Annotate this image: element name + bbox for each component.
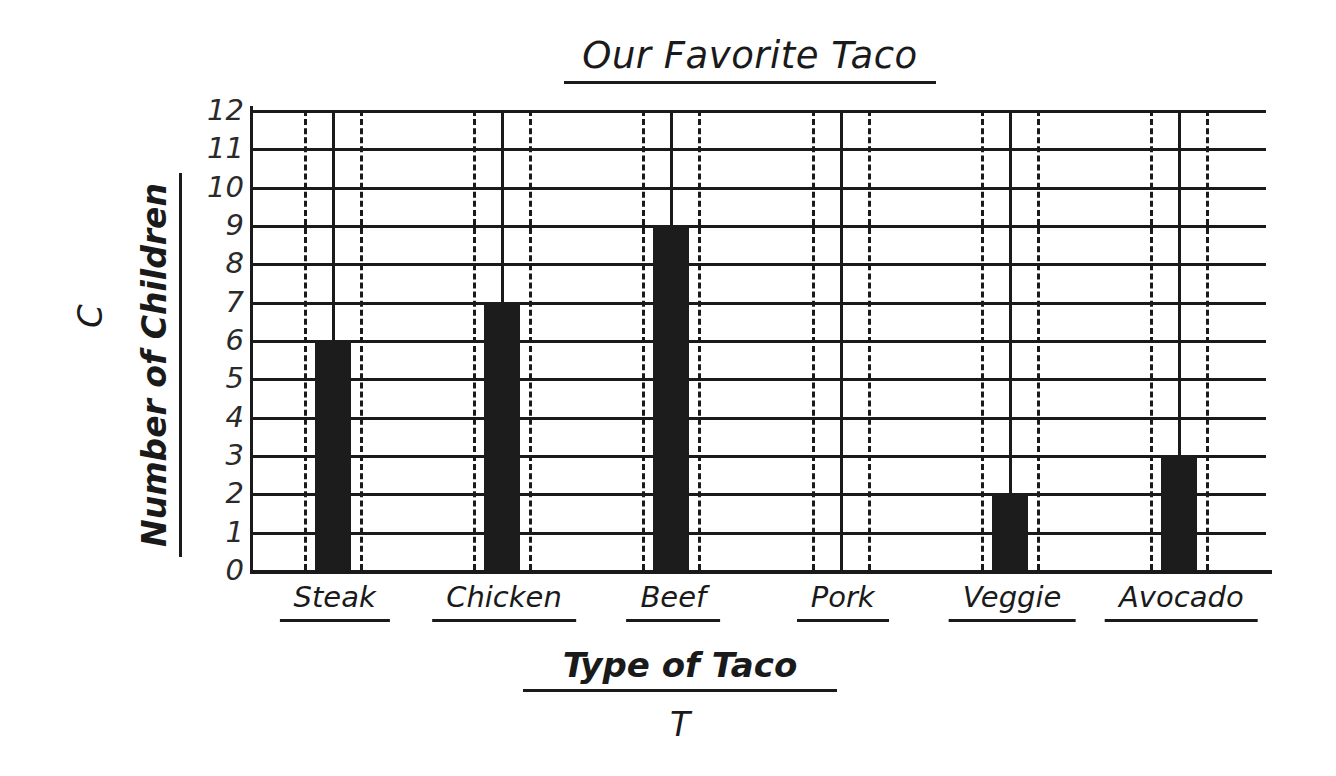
y-axis-tick-labels: 1211109876543210 — [196, 110, 244, 570]
chart-title: Our Favorite Taco — [564, 34, 935, 84]
dashed-guide-right-steak — [360, 110, 363, 570]
gridline-9 — [250, 225, 1266, 228]
x-axis-label-container: Type of Taco — [420, 645, 940, 692]
x-tick-veggie: Veggie — [949, 580, 1076, 622]
x-axis-tick-labels: SteakChickenBeefPorkVeggieAvocado — [250, 580, 1266, 630]
y-tick-4: 4 — [196, 402, 244, 431]
bar-veggie — [992, 493, 1028, 570]
x-tick-pork: Pork — [797, 580, 889, 622]
y-tick-9: 9 — [196, 211, 244, 240]
y-tick-0: 0 — [196, 556, 244, 585]
center-guide-pork — [840, 110, 843, 570]
plot-area — [250, 110, 1266, 570]
gridline-2 — [250, 493, 1266, 496]
bar-steak — [315, 340, 351, 570]
dashed-guide-right-pork — [868, 110, 871, 570]
gridline-6 — [250, 340, 1266, 343]
bar-chart: Our Favorite Taco C Number of Children 1… — [0, 0, 1336, 776]
y-tick-8: 8 — [196, 249, 244, 278]
x-tick-avocado: Avocado — [1105, 580, 1258, 622]
gridline-11 — [250, 148, 1266, 151]
gridline-10 — [250, 187, 1266, 190]
y-tick-2: 2 — [196, 479, 244, 508]
dashed-guide-left-pork — [812, 110, 815, 570]
dashed-guide-right-chicken — [529, 110, 532, 570]
x-tick-label-veggie: Veggie — [949, 580, 1076, 622]
x-tick-label-beef: Beef — [626, 580, 720, 622]
y-tick-6: 6 — [196, 326, 244, 355]
y-tick-11: 11 — [196, 134, 244, 163]
x-axis-label: Type of Taco — [523, 645, 838, 692]
x-tick-label-chicken: Chicken — [432, 580, 576, 622]
y-axis-variable: C — [70, 304, 110, 328]
y-tick-7: 7 — [196, 287, 244, 316]
gridline-5 — [250, 378, 1266, 381]
x-tick-beef: Beef — [626, 580, 720, 622]
dashed-guide-left-beef — [642, 110, 645, 570]
gridline-3 — [250, 455, 1266, 458]
dashed-guide-right-beef — [698, 110, 701, 570]
bar-avocado — [1161, 455, 1197, 570]
x-tick-label-steak: Steak — [280, 580, 390, 622]
dashed-guide-left-chicken — [473, 110, 476, 570]
chart-title-container: Our Favorite Taco — [430, 34, 1070, 84]
x-tick-label-avocado: Avocado — [1105, 580, 1258, 622]
y-axis-label-container: Number of Children — [135, 135, 185, 595]
y-tick-1: 1 — [196, 517, 244, 546]
x-axis-variable: T — [420, 705, 940, 744]
y-tick-12: 12 — [196, 96, 244, 125]
dashed-guide-left-avocado — [1150, 110, 1153, 570]
y-tick-10: 10 — [196, 172, 244, 201]
dashed-guide-left-steak — [304, 110, 307, 570]
gridline-7 — [250, 302, 1266, 305]
x-tick-label-pork: Pork — [797, 580, 889, 622]
y-axis-label: Number of Children — [135, 173, 182, 557]
y-tick-3: 3 — [196, 441, 244, 470]
bar-beef — [653, 225, 689, 570]
dashed-guide-left-veggie — [981, 110, 984, 570]
dashed-guide-right-veggie — [1037, 110, 1040, 570]
y-tick-5: 5 — [196, 364, 244, 393]
bar-chicken — [484, 302, 520, 570]
x-tick-steak: Steak — [280, 580, 390, 622]
x-tick-chicken: Chicken — [432, 580, 576, 622]
gridline-4 — [250, 417, 1266, 420]
x-axis-line — [250, 570, 1272, 574]
dashed-guide-right-avocado — [1206, 110, 1209, 570]
gridline-8 — [250, 263, 1266, 266]
gridline-12 — [250, 110, 1266, 113]
gridline-1 — [250, 532, 1266, 535]
